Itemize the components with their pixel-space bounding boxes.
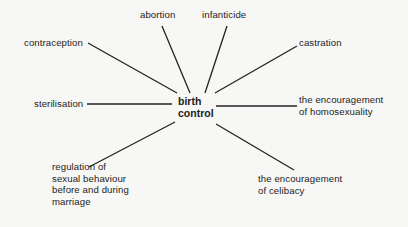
node-contraception: contraception bbox=[24, 37, 83, 49]
line-infanticide bbox=[205, 26, 227, 93]
node-regulation-line4: marriage bbox=[52, 196, 129, 208]
node-homosexuality-line1: the encouragement bbox=[299, 94, 383, 106]
line-castration bbox=[215, 46, 297, 93]
node-castration: castration bbox=[299, 37, 342, 49]
node-regulation-line1: regulation of bbox=[52, 161, 129, 173]
node-regulation: regulation of sexual behaviour before an… bbox=[52, 161, 129, 207]
center-label-line1: birth bbox=[178, 95, 214, 107]
node-homosexuality-line2: of homosexuality bbox=[299, 106, 383, 118]
line-contraception bbox=[88, 43, 177, 93]
node-celibacy-line2: of celibacy bbox=[258, 185, 342, 197]
node-regulation-line3: before and during bbox=[52, 184, 129, 196]
node-abortion: abortion bbox=[140, 9, 175, 21]
line-celibacy bbox=[216, 124, 294, 170]
node-celibacy-line1: the encouragement bbox=[258, 173, 342, 185]
center-label-line2: control bbox=[178, 107, 214, 119]
line-abortion bbox=[162, 26, 190, 93]
node-homosexuality: the encouragement of homosexuality bbox=[299, 94, 383, 117]
node-regulation-line2: sexual behaviour bbox=[52, 173, 129, 185]
node-sterilisation: sterilisation bbox=[34, 98, 83, 110]
node-celibacy: the encouragement of celibacy bbox=[258, 173, 342, 196]
center-node-birth-control: birth control bbox=[178, 95, 214, 119]
node-infanticide: infanticide bbox=[202, 9, 246, 21]
